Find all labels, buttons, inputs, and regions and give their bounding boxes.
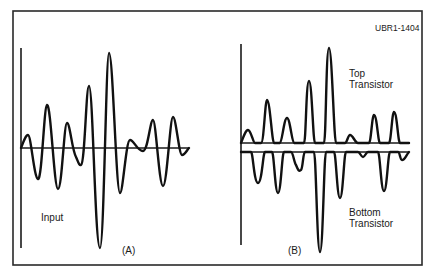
panel-a-caption: (A) <box>122 245 135 256</box>
bottom-transistor-waveform <box>241 152 409 252</box>
top-transistor-waveform <box>241 48 409 143</box>
figure-id-label: UBR1-1404 <box>375 23 420 33</box>
top-transistor-label-line1: Top <box>349 68 366 79</box>
bottom-transistor-label-line2: Transistor <box>349 218 394 229</box>
diagram-figure: UBR1-1404 Input (A) Top Transistor Botto… <box>0 0 430 274</box>
top-transistor-label-line2: Transistor <box>349 79 394 90</box>
panel-b-caption: (B) <box>288 245 301 256</box>
panel-b: Top Transistor Bottom Transistor (B) <box>241 44 409 256</box>
bottom-transistor-label-line1: Bottom <box>349 207 381 218</box>
input-label: Input <box>41 212 63 223</box>
panel-a: Input (A) <box>21 48 189 256</box>
